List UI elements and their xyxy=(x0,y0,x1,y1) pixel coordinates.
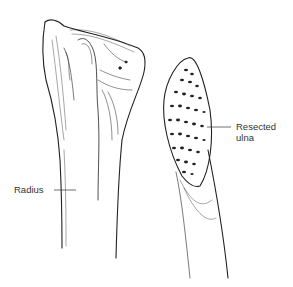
resected-ulna-label-line1: Resected xyxy=(236,121,276,132)
leader-lines xyxy=(54,127,231,190)
radius-bone xyxy=(43,20,145,258)
bone-illustration xyxy=(0,0,293,287)
ulna-bone xyxy=(164,58,228,278)
resected-ulna-label: Resected ulna xyxy=(236,121,276,143)
radius-label: Radius xyxy=(14,184,44,195)
resected-ulna-label-line2: ulna xyxy=(236,132,276,143)
